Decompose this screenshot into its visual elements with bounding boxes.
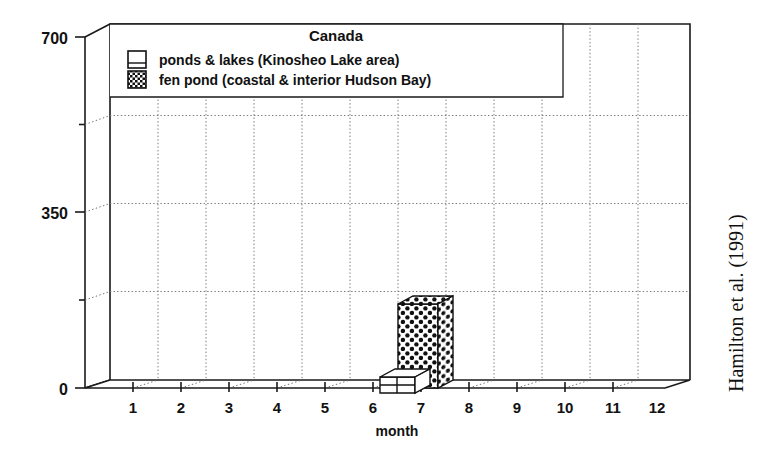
bar-ponds-lakes-month-7 [380, 369, 430, 393]
x-tick-label-12: 12 [649, 399, 666, 416]
x-tick-label-5: 5 [321, 399, 329, 416]
x-tick-label-2: 2 [177, 399, 185, 416]
x-tick-label-4: 4 [273, 399, 282, 416]
x-tick-label-11: 11 [605, 399, 621, 416]
x-tick-label-9: 9 [513, 399, 521, 416]
legend-title: Canada [309, 27, 364, 44]
legend-label-fen-pond: fen pond (coastal & interior Hudson Bay) [159, 72, 431, 88]
x-tick-label-3: 3 [225, 399, 233, 416]
x-axis-title: month [376, 423, 419, 439]
x-tick-label-7: 7 [417, 399, 425, 416]
legend-label-ponds-lakes: ponds & lakes (Kinosheo Lake area) [159, 52, 399, 68]
chart-legend: Canada ponds & lakes (Kinosheo Lake area… [110, 24, 563, 97]
y-tick-label-700: 700 [41, 30, 68, 47]
bar-chart-canvas: 700 350 0 [0, 0, 759, 464]
x-tick-label-6: 6 [369, 399, 377, 416]
x-tick-label-1: 1 [129, 399, 137, 416]
legend-swatch-open-box-icon [128, 51, 146, 68]
legend-swatch-checker-box-icon [128, 71, 146, 88]
y-axis [75, 24, 110, 388]
source-citation: Hamilton et al. (1991) [725, 214, 748, 392]
y-tick-label-0: 0 [59, 381, 68, 398]
x-tick-label-8: 8 [465, 399, 473, 416]
y-tick-label-350: 350 [41, 205, 68, 222]
x-tick-label-10: 10 [557, 399, 574, 416]
chart-figure: 700 350 0 [0, 0, 759, 464]
